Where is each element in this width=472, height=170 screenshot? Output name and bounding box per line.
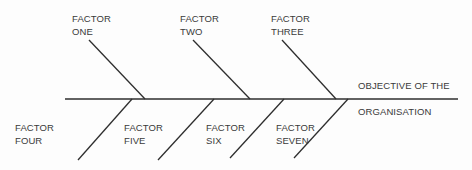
fishbone-diagram: FACTOR ONE FACTOR TWO FACTOR THREE FACTO… [0,0,472,170]
factor-two-label: FACTOR TWO [180,12,219,38]
factor-six-label: FACTOR SIX [206,121,245,147]
factor-four-label: FACTOR FOUR [15,121,54,147]
objective-label-line2: ORGANISATION [358,105,431,118]
bone-factor-one [89,40,145,99]
factor-five-label: FACTOR FIVE [124,121,163,147]
factor-one-label: FACTOR ONE [72,12,111,38]
factor-seven-label: FACTOR SEVEN [276,121,315,147]
bone-factor-two [193,40,250,99]
objective-label-line1: OBJECTIVE OF THE [358,79,450,92]
factor-three-label: FACTOR THREE [271,12,310,38]
bone-factor-three [282,40,336,99]
